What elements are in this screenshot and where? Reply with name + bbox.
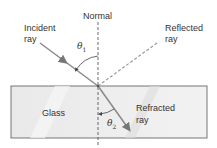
normal-label: Normal xyxy=(83,11,112,21)
theta1-arc xyxy=(76,56,98,70)
reflected-label-2: ray xyxy=(165,34,178,44)
theta1-label: θ1 xyxy=(77,41,86,53)
glass-label: Glass xyxy=(42,108,65,118)
incident-ray xyxy=(40,43,98,86)
reflected-ray xyxy=(98,43,157,86)
incident-label-2: ray xyxy=(24,34,37,44)
refracted-label-1: Refracted xyxy=(136,103,175,113)
theta2-label: θ2 xyxy=(107,118,116,130)
refracted-label-2: ray xyxy=(136,115,149,125)
incident-label-1: Incident xyxy=(24,23,56,33)
reflected-label-1: Reflected xyxy=(165,23,203,33)
